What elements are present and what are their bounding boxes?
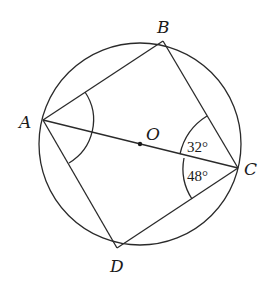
label-c: C xyxy=(244,159,257,179)
angle-label-32: 32° xyxy=(187,139,208,155)
segment-da xyxy=(43,120,117,248)
center-point-o xyxy=(138,142,142,146)
label-a: A xyxy=(17,112,31,132)
segment-cd xyxy=(117,168,238,248)
label-o: O xyxy=(146,124,160,144)
angle-label-48: 48° xyxy=(187,168,208,184)
label-d: D xyxy=(109,256,124,276)
label-b: B xyxy=(156,17,170,37)
geometry-diagram: A B C D O 32° 48° xyxy=(0,0,270,282)
